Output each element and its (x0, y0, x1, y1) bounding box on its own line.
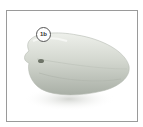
callout-label: 1b (37, 28, 50, 41)
callout-marker: 1b (36, 27, 51, 42)
pepper-image (7, 11, 139, 123)
image-frame: 1b (6, 10, 138, 122)
